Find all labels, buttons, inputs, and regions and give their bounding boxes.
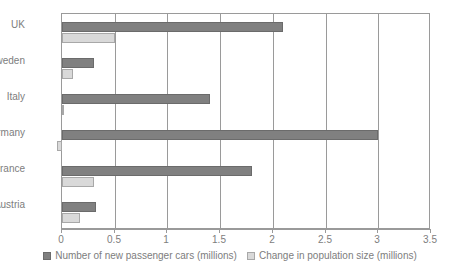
- category-label-sweden: Sweden: [0, 55, 25, 67]
- bar-population-change: [62, 33, 115, 43]
- bar-group: [62, 14, 429, 50]
- legend-label-passenger-cars: Number of new passenger cars (millions): [55, 250, 237, 262]
- bar-population-change: [62, 105, 64, 115]
- bar-passenger-cars: [62, 94, 210, 104]
- x-tick-mark: [325, 229, 326, 233]
- x-tick-mark: [219, 229, 220, 233]
- bar-group: [62, 86, 429, 122]
- bar-passenger-cars: [62, 22, 283, 32]
- bar-group: [62, 194, 429, 230]
- category-label-germany: Germany: [0, 127, 25, 139]
- bar-passenger-cars: [62, 166, 252, 176]
- category-label-italy: Italy: [7, 91, 25, 103]
- x-tick-label: 0.5: [94, 234, 134, 246]
- category-label-austria: Austria: [0, 199, 25, 211]
- bar-population-change: [62, 213, 80, 223]
- bar-group: [62, 158, 429, 194]
- category-label-france: France: [0, 163, 25, 175]
- bar-chart: Number of new passenger cars (millions) …: [0, 0, 460, 272]
- x-tick-label: 1: [146, 234, 186, 246]
- x-axis-line: [61, 229, 430, 230]
- x-tick-mark: [61, 229, 62, 233]
- bar-passenger-cars: [62, 130, 378, 140]
- x-tick-mark: [430, 229, 431, 233]
- x-tick-mark: [114, 229, 115, 233]
- bar-passenger-cars: [62, 58, 94, 68]
- x-tick-label: 2: [252, 234, 292, 246]
- x-tick-label: 0: [41, 234, 81, 246]
- bar-population-change: [57, 141, 62, 151]
- bar-passenger-cars: [62, 202, 96, 212]
- x-tick-mark: [377, 229, 378, 233]
- light-gray-swatch-icon: [247, 252, 255, 260]
- x-tick-mark: [166, 229, 167, 233]
- category-label-uk: UK: [11, 19, 25, 31]
- dark-gray-swatch-icon: [43, 252, 51, 260]
- x-tick-label: 1.5: [199, 234, 239, 246]
- x-tick-mark: [272, 229, 273, 233]
- x-tick-label: 3: [357, 234, 397, 246]
- bar-population-change: [62, 177, 94, 187]
- bar-group: [62, 122, 429, 158]
- legend-item-population-change: Change in population size (millions): [247, 250, 417, 262]
- x-tick-label: 2.5: [305, 234, 345, 246]
- legend-label-population-change: Change in population size (millions): [259, 250, 417, 262]
- x-tick-label: 3.5: [410, 234, 450, 246]
- chart-legend: Number of new passenger cars (millions) …: [0, 250, 460, 262]
- legend-item-passenger-cars: Number of new passenger cars (millions): [43, 250, 237, 262]
- bar-population-change: [62, 69, 73, 79]
- plot-area: [61, 13, 430, 229]
- bar-group: [62, 50, 429, 86]
